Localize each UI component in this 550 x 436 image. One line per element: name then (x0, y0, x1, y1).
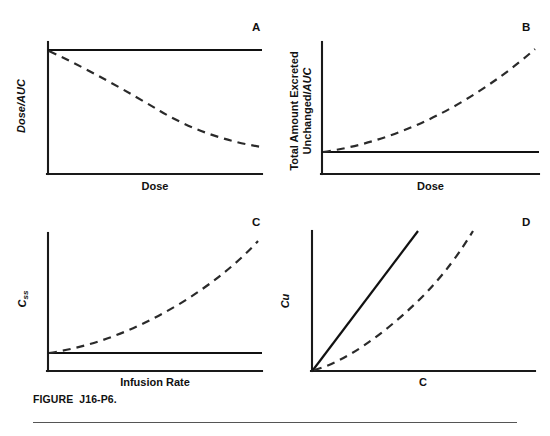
panel-letter-b: B (522, 21, 531, 33)
y-axis-label: Cu (279, 281, 291, 321)
y-axis-label-line2: Unchanged/AUC (301, 36, 314, 186)
series-dashed-nonlinear (314, 231, 473, 370)
y-axis-label: Dose/AUC (15, 61, 27, 151)
panel-letter-d: D (522, 216, 531, 228)
y-axis-label-line1: Total Amount Excreted (288, 36, 301, 186)
panel-b: B Dose Total Amount Excreted Unchanged/A… (273, 18, 550, 208)
y-axis-label-subscript: ss (21, 291, 30, 300)
series-dashed-nonlinear (49, 51, 262, 147)
panel-letter-a: A (252, 21, 261, 33)
x-axis-label: Dose (322, 180, 539, 192)
series-dashed-nonlinear (323, 49, 535, 152)
panel-c: C Infusion Rate Css (0, 213, 275, 398)
x-axis-label: C (311, 376, 535, 388)
panel-d-plot (273, 213, 550, 398)
panel-a: A Dose Dose/AUC (0, 18, 275, 208)
y-axis-label: Css (16, 271, 28, 327)
series-dashed-nonlinear (49, 241, 258, 353)
figure-container: A Dose Dose/AUC B Dose Total Amou (0, 0, 550, 436)
x-axis-label: Infusion Rate (48, 376, 262, 388)
y-axis-label-symbol: C (16, 299, 28, 307)
x-axis-label: Dose (48, 180, 262, 192)
panel-d: D C Cu (273, 213, 550, 398)
y-axis-label: Total Amount Excreted Unchanged/AUC (288, 36, 314, 186)
caption-divider (33, 422, 517, 423)
figure-caption: FIGURE J16-P6. (33, 393, 117, 405)
panel-c-plot (0, 213, 275, 398)
series-solid-linear (313, 231, 418, 370)
panel-letter-c: C (252, 216, 261, 228)
